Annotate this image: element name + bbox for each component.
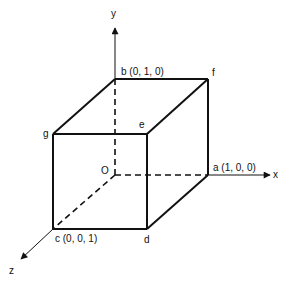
vertex-d-label: d (144, 235, 150, 245)
vertex-b-label: b (0, 1, 0) (121, 67, 164, 77)
vertex-f-label: f (212, 68, 215, 78)
hidden-edge-O-c (53, 175, 115, 229)
vertex-a-label: a (1, 0, 0) (213, 163, 256, 173)
cube-drawing (0, 0, 285, 285)
edge-a-d (147, 175, 208, 229)
z-axis (21, 229, 53, 259)
edge-b-g (53, 79, 115, 134)
origin-label: O (101, 166, 109, 176)
vertex-g-label: g (43, 129, 49, 139)
vertex-c-label: c (0, 0, 1) (55, 234, 97, 244)
x-axis-label: x (273, 170, 278, 180)
y-axis-label: y (111, 9, 116, 19)
edge-f-e (147, 79, 208, 134)
cube-diagram: y x z O b (0, 1, 0) f g e a (1, 0, 0) c … (0, 0, 285, 285)
z-axis-label: z (9, 266, 14, 276)
vertex-e-label: e (139, 120, 145, 130)
